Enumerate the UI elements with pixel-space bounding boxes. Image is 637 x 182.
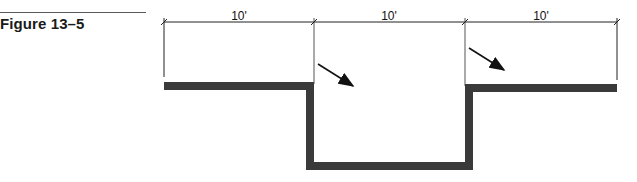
dimension-label-2: 10': [381, 9, 397, 23]
arrow-right-corner: [469, 48, 504, 70]
section-diagram: 10' 10' 10': [0, 0, 637, 182]
arrow-left-corner: [318, 64, 353, 86]
dimension-label-3: 10': [533, 9, 549, 23]
dimension-label-1: 10': [231, 9, 247, 23]
channel-profile: [164, 82, 617, 170]
figure-canvas: Figure 13–5 10' 10' 10': [0, 0, 637, 182]
